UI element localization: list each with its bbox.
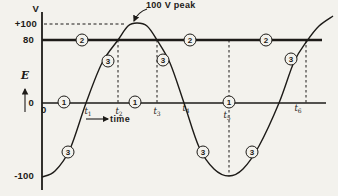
x-tick-t1: t1 [84,107,91,117]
x-tick-t4: t4 [182,104,189,114]
waveform-plot [0,0,338,196]
circled-marker-3: 3 [157,54,170,67]
y-tick-plus100: +100 [4,19,37,29]
y-tick-80: 80 [4,35,34,45]
circled-marker-1: 1 [58,96,71,109]
y-tick-minus100: -100 [4,171,34,181]
circled-marker-3: 3 [285,53,298,66]
circled-marker-1: 1 [129,96,142,109]
x-tick-t5: t5 [223,111,230,121]
circled-marker-2: 2 [76,34,89,47]
circled-marker-3: 3 [197,146,210,159]
x-tick-t2: t2 [115,107,122,117]
circled-marker-3: 3 [62,146,75,159]
circled-marker-1: 1 [223,96,236,109]
peak-annotation-arrow [134,9,147,21]
x-origin-label: 0 [41,105,46,115]
y-axis-unit-label: V [20,4,39,14]
x-tick-t6: t6 [294,104,301,114]
circled-marker-3: 3 [246,146,259,159]
e-axis-symbol: E [21,70,29,81]
y-tick-0: 0 [4,98,34,108]
peak-annotation: 100 V peak [146,1,196,10]
waveform-figure: V +100 80 0 -100 0 E time 100 V peak t1t… [0,0,338,196]
x-tick-t3: t3 [153,107,160,117]
circled-marker-3: 3 [102,55,115,68]
circled-marker-2: 2 [260,34,273,47]
circled-marker-2: 2 [184,34,197,47]
